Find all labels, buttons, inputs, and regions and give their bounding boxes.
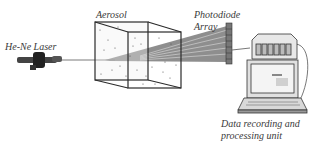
aerosol-label: Aerosol	[96, 9, 127, 20]
photodiode-label-line1: Photodiode	[194, 9, 240, 20]
unit-label-line1: Data recording and	[221, 118, 300, 129]
photodiode-array-icon	[226, 23, 232, 64]
laser-label: He-Ne Laser	[5, 41, 56, 52]
unit-label-line2: processing unit	[221, 130, 282, 141]
signal-cable	[232, 48, 250, 50]
computer-icon	[238, 34, 307, 113]
laser-device-icon	[17, 52, 62, 70]
photodiode-label-line2: Array	[194, 21, 217, 32]
